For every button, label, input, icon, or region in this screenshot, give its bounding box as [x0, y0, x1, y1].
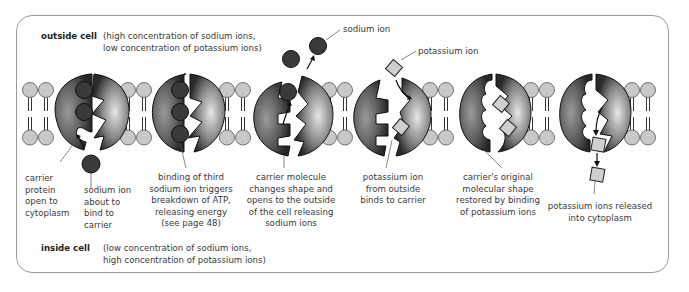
carrier-protein-5 [460, 74, 531, 168]
sodium-ion-released [310, 38, 327, 55]
outside-cell-title: outside cell [41, 31, 97, 43]
carrier-protein-2 [152, 74, 225, 168]
sodium-ion-callout: sodium ion [343, 24, 390, 36]
step-7-label: potassium ions released into cytoplasm [546, 201, 654, 224]
potassium-ion [386, 60, 403, 77]
step-6-label: carrier's original molecular shape resto… [452, 172, 544, 218]
step-4-label: carrier molecule changes shape and opens… [243, 172, 339, 230]
carrier-protein-6 [560, 74, 631, 194]
step-1-label: carrier protein open to cytoplasm [25, 173, 69, 219]
step-5-label: potassium ion from outside binds to carr… [357, 172, 429, 207]
carrier-protein-4 [354, 51, 431, 168]
inside-cell-description: (low concentration of sodium ions, high … [103, 243, 266, 266]
inside-cell-title: inside cell [41, 243, 90, 255]
step-2-label: sodium ion about to bind to carrier [84, 185, 131, 231]
potassium-ion-callout: potassium ion [418, 46, 478, 58]
carrier-protein-1 [55, 74, 129, 188]
carrier-protein-3 [254, 30, 340, 168]
sodium-ion [82, 155, 100, 173]
outside-cell-description: (high concentration of sodium ions, low … [103, 31, 262, 54]
step-3-label: binding of third sodium ion triggers bre… [146, 172, 236, 230]
